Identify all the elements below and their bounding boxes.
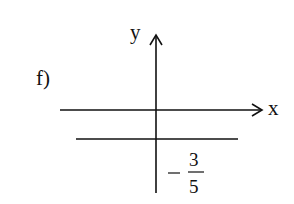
part-label: f): [36, 68, 50, 89]
fraction-denominator: 5: [189, 177, 199, 196]
y-axis-label: y: [130, 22, 141, 43]
x-axis-label: x: [268, 98, 279, 119]
graph: [0, 0, 294, 204]
fraction-numerator: 3: [189, 150, 199, 169]
